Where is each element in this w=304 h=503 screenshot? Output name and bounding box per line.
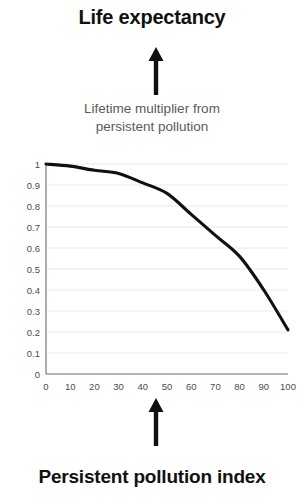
svg-text:0.2: 0.2 [27,327,40,338]
svg-text:0.4: 0.4 [27,285,40,296]
arrow-up-icon-top [146,47,166,95]
caption-line-1: Lifetime multiplier from [84,101,220,116]
svg-text:80: 80 [234,381,245,392]
svg-text:90: 90 [259,381,270,392]
svg-text:0.6: 0.6 [27,243,40,254]
series-line-lifetime-multiplier [46,164,288,330]
svg-text:0.3: 0.3 [27,306,40,317]
svg-text:20: 20 [89,381,100,392]
svg-text:0: 0 [35,369,40,380]
svg-text:0.9: 0.9 [27,180,40,191]
svg-text:70: 70 [210,381,221,392]
svg-text:60: 60 [186,381,197,392]
svg-text:0.1: 0.1 [27,348,40,359]
svg-text:0.5: 0.5 [27,264,40,275]
svg-text:100: 100 [280,381,296,392]
svg-text:50: 50 [162,381,173,392]
svg-text:0: 0 [43,381,48,392]
svg-text:0.8: 0.8 [27,201,40,212]
arrow-up-icon-bottom [146,398,166,446]
line-chart: 00.10.20.30.40.50.60.70.80.9101020304050… [0,158,304,398]
page-title-persistent-pollution-index: Persistent pollution index [0,466,304,488]
svg-text:30: 30 [113,381,124,392]
caption-lifetime-multiplier: Lifetime multiplier from persistent poll… [0,100,304,136]
caption-line-2: persistent pollution [0,118,304,136]
page-title-life-expectancy: Life expectancy [0,6,304,29]
svg-text:40: 40 [138,381,149,392]
svg-text:0.7: 0.7 [27,222,40,233]
figure-canvas: Life expectancy Lifetime multiplier from… [0,0,304,503]
svg-text:10: 10 [65,381,76,392]
svg-text:1: 1 [35,159,40,170]
